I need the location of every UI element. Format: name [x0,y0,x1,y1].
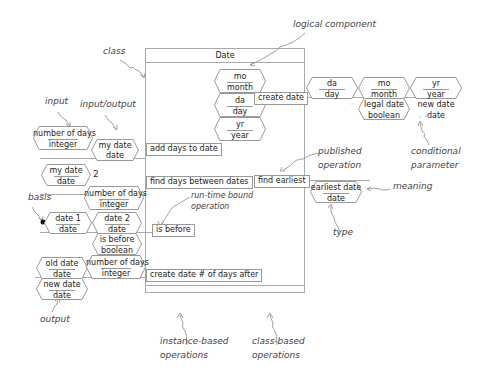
param-number-of-days-3: number of days integer [86,255,146,279]
note-input: input [45,95,68,108]
note-class: class [103,45,125,58]
param-date-2: date 2 date [92,212,142,234]
op-create-date[interactable]: create date [254,92,308,105]
param-new-date-conditional: new date date [410,98,462,120]
param-earliest-date: earliest date date [310,181,362,203]
param-number-of-days-2: number of days integer [84,186,144,210]
param-date-1: date 1 date [44,212,92,234]
param-mo: mo month [358,77,410,99]
param-yr: yr year [410,77,462,99]
note-published-2: operation [318,159,361,172]
param-new-date: new date date [36,278,88,300]
date-class-diagram: Date mo month da day yr year add days to… [0,0,490,375]
note-basis: basis [28,191,51,204]
note-instance-based-2: operations [160,349,208,362]
note-type: type [333,226,353,239]
note-output: output [40,313,70,326]
note-class-based-2: operations [252,349,300,362]
param-old-date: old date date [36,257,88,279]
note-conditional: conditional [411,145,461,158]
note-run-time-bound: run-time bound [191,190,253,201]
component-month: mo month [214,69,266,93]
note-meaning: meaning [393,180,432,193]
op-add-days[interactable]: add days to date [146,143,222,156]
param-legal-date: legal date boolean [358,98,410,120]
param-is-before-result: is before boolean [92,233,142,255]
note-logical-component: logical component [293,18,376,31]
multiplicity-marker: 2 [93,170,99,179]
component-year: yr year [214,117,266,141]
param-number-of-days: number of days integer [33,126,93,150]
param-da: da day [306,77,358,99]
op-find-between[interactable]: find days between dates [146,176,253,189]
note-conditional-2: parameter [411,159,459,172]
note-class-based: class-based [252,335,305,348]
op-find-earliest[interactable]: find earliest [254,175,310,188]
op-create-after[interactable]: create date # of days after [146,269,262,282]
param-my-date: my date date [91,139,139,161]
class-title: Date [146,49,304,62]
note-input-output: input/output [80,98,136,111]
note-instance-based: instance-based [160,335,229,348]
note-published: published [318,145,362,158]
op-is-before[interactable]: is before [152,224,195,237]
param-my-date-2: my date date [41,164,91,186]
note-run-time-bound-2: operation [191,201,229,212]
